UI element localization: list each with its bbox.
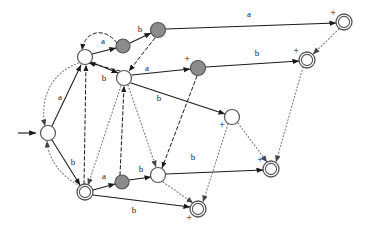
edge-label-e1: a — [101, 36, 105, 46]
edge-q3-to-q4 — [130, 33, 151, 43]
node-inner-ring — [265, 163, 276, 174]
state-node-q0[interactable] — [41, 126, 56, 141]
node-circle — [225, 110, 240, 125]
edge-q10-to-q11 — [93, 184, 115, 190]
state-node-q12[interactable] — [151, 168, 166, 183]
edge-q7-to-q9 — [276, 67, 303, 162]
edge-q4-to-q5 — [166, 23, 336, 29]
edge-label-e7: b — [157, 93, 162, 103]
state-node-q4[interactable] — [151, 23, 166, 38]
edge-q2-to-q6 — [132, 69, 190, 75]
state-node-q3[interactable] — [116, 39, 130, 53]
edge-q2-to-q12 — [128, 85, 156, 167]
state-node-q10[interactable] — [77, 184, 93, 200]
node-inner-ring — [79, 186, 90, 197]
edge-label-e2: b — [138, 24, 143, 34]
edge-q1-to-q1 — [82, 33, 117, 50]
state-node-q1[interactable] — [78, 50, 93, 65]
edge-label-e13: b — [132, 205, 137, 215]
node-inner-ring — [338, 16, 349, 27]
node-inner-ring — [301, 54, 312, 65]
accepting-marker-q7: + — [293, 45, 299, 56]
edge-q6-to-q7 — [206, 61, 299, 67]
accepting-marker-q6: + — [184, 53, 190, 64]
edge-q11-to-q12 — [129, 177, 151, 180]
edge-q5-to-q7 — [313, 29, 339, 54]
state-node-q13[interactable]: + — [186, 201, 206, 223]
edge-q10-to-q1 — [84, 65, 86, 184]
state-node-q5[interactable]: + — [330, 7, 352, 30]
edge-label-e11: b — [139, 164, 144, 174]
state-node-q11[interactable] — [115, 175, 129, 189]
edge-q12-to-q9 — [166, 170, 263, 174]
edge-q0-to-q1 — [52, 65, 81, 126]
edge-label-e12: b — [191, 152, 196, 162]
accepting-marker-q8: + — [219, 119, 225, 130]
edge-q10-to-q13 — [93, 195, 190, 207]
edge-label-e6: b — [255, 48, 260, 58]
node-circle-filled — [115, 175, 129, 189]
node-circle — [78, 50, 93, 65]
node-circle — [41, 126, 56, 141]
edge-q1-to-q3 — [92, 48, 116, 54]
state-node-q2[interactable] — [117, 71, 132, 86]
node-circle — [117, 71, 132, 86]
node-circle — [151, 168, 166, 183]
edge-label-e8: a — [58, 92, 62, 102]
edge-label-e10: a — [102, 171, 106, 181]
edge-label-e9: b — [71, 157, 76, 167]
node-circle-filled — [191, 61, 206, 76]
edge-q8-to-q13 — [203, 124, 228, 202]
state-node-q7[interactable]: + — [293, 45, 315, 68]
edge-label-e5: a — [145, 63, 149, 73]
node-layer: ++++++ — [41, 7, 353, 223]
edge-q0-to-q10 — [52, 140, 80, 185]
node-circle-filled — [116, 39, 130, 53]
edge-label-e3: a — [247, 9, 251, 19]
edge-q4-to-q2 — [129, 38, 155, 71]
state-node-q9[interactable]: + — [257, 154, 279, 177]
automaton-svg: abababbababbb ++++++ — [0, 0, 368, 236]
state-node-q6[interactable]: + — [184, 53, 205, 75]
edge-q1-to-q2 — [91, 62, 118, 73]
node-circle-filled — [151, 23, 166, 38]
edge-q2-to-q8 — [131, 83, 225, 114]
automaton-diagram: abababbababbb ++++++ — [0, 0, 368, 236]
node-inner-ring — [192, 203, 203, 214]
edge-q12-to-q13 — [163, 182, 193, 203]
accepting-marker-q9: + — [257, 154, 263, 165]
edge-label-e4: b — [102, 73, 107, 83]
accepting-marker-q5: + — [330, 7, 336, 18]
edge-q0-to-q1 — [44, 62, 82, 126]
accepting-marker-q13: + — [186, 212, 192, 223]
edge-q11-to-q2 — [120, 86, 124, 175]
